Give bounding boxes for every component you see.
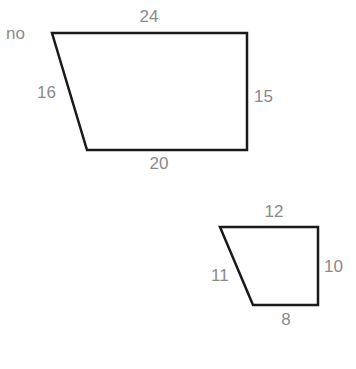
- small-trapezoid: 12 10 8 11: [211, 202, 343, 329]
- large-trapezoid: 24 15 20 16: [37, 7, 273, 173]
- large-right-side-label: 15: [254, 87, 273, 106]
- small-trapezoid-outline: [220, 227, 318, 305]
- small-top-side-label: 12: [265, 202, 284, 221]
- small-left-side-label: 11: [211, 266, 229, 285]
- small-right-side-label: 10: [324, 257, 343, 276]
- small-bottom-side-label: 8: [281, 310, 290, 329]
- caption-label: no: [6, 24, 25, 43]
- diagram-canvas: no 24 15 20 16 12 10 8 11: [0, 0, 356, 369]
- large-left-side-label: 16: [37, 83, 56, 102]
- large-bottom-side-label: 20: [150, 154, 169, 173]
- large-top-side-label: 24: [140, 7, 159, 26]
- large-trapezoid-outline: [52, 33, 247, 150]
